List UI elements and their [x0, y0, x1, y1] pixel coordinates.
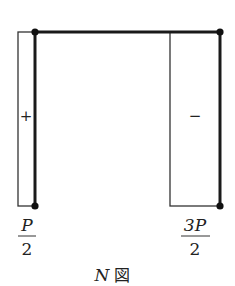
- caption-suffix: 図: [114, 266, 130, 285]
- joint-top-left-icon: [31, 28, 38, 35]
- left-value-numerator: P: [20, 215, 33, 235]
- right-value-denominator: 2: [190, 239, 201, 259]
- caption-variable: N: [94, 265, 111, 285]
- right-value-numerator: 3P: [184, 215, 207, 235]
- axial-force-diagram: + − P 2 3P 2 N 図: [0, 0, 235, 286]
- support-bottom-right-icon: [216, 202, 223, 209]
- minus-sign: −: [189, 107, 202, 125]
- left-value-denominator: 2: [22, 239, 33, 259]
- plus-sign: +: [20, 107, 33, 125]
- joint-top-right-icon: [216, 28, 223, 35]
- support-bottom-left-icon: [31, 202, 38, 209]
